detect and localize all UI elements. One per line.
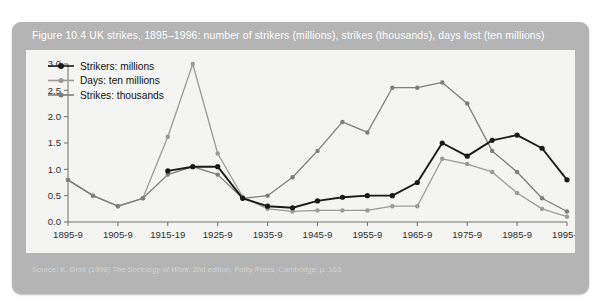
- legend-label: Strikes: thousands: [80, 90, 164, 101]
- data-point: [490, 170, 494, 174]
- data-point: [66, 178, 70, 182]
- line-chart: 0.00.51.01.52.02.53.0 1895-91905-91915-1…: [26, 50, 575, 253]
- legend-marker: [59, 78, 64, 83]
- data-point: [565, 215, 569, 219]
- data-point: [340, 120, 344, 124]
- x-tick-label: 1905-9: [103, 229, 133, 240]
- data-point: [265, 193, 269, 197]
- data-point: [365, 208, 369, 212]
- data-point: [290, 205, 295, 210]
- data-point: [91, 193, 95, 197]
- data-point: [515, 133, 520, 138]
- source-suffix: , 2nd edition, Polity Press, Cambridge; …: [189, 265, 344, 274]
- chart-legend: Strikers: millionsDays: ten millionsStri…: [48, 61, 164, 101]
- y-tick-label: 0.0: [48, 216, 61, 227]
- plot-area: 0.00.51.01.52.02.53.0 1895-91905-91915-1…: [26, 50, 575, 253]
- y-tick-label: 2.0: [48, 111, 61, 122]
- data-point: [340, 195, 345, 200]
- data-point: [240, 196, 245, 201]
- x-tick-label: 1975-9: [452, 229, 482, 240]
- figure-caption: Figure 10.4 UK strikes, 1895–1996: numbe…: [32, 30, 577, 41]
- data-point: [215, 164, 220, 169]
- data-point: [315, 149, 319, 153]
- data-point: [315, 208, 319, 212]
- data-point: [390, 204, 394, 208]
- data-point: [365, 193, 370, 198]
- source-title: The Sociology of Work: [112, 265, 188, 274]
- data-point: [465, 101, 469, 105]
- data-point: [490, 149, 494, 153]
- data-point: [539, 146, 544, 151]
- x-tick-label: 1915-19: [150, 229, 185, 240]
- x-tick-label: 1965-9: [402, 229, 432, 240]
- data-point: [116, 204, 120, 208]
- x-tick-label: 1935-9: [253, 229, 283, 240]
- x-tick-label: 1925-9: [203, 229, 233, 240]
- data-point: [340, 208, 344, 212]
- data-point: [465, 154, 470, 159]
- data-point: [290, 175, 294, 179]
- data-point: [440, 140, 445, 145]
- source-note: Source: K. Grint (1998) The Sociology of…: [32, 265, 579, 274]
- data-point: [365, 130, 369, 134]
- data-point: [390, 193, 395, 198]
- y-tick-label: 0.5: [48, 190, 61, 201]
- data-point: [165, 168, 170, 173]
- y-tick-label: 1.0: [48, 164, 61, 175]
- data-point: [141, 196, 145, 200]
- data-point: [540, 207, 544, 211]
- data-point: [465, 162, 469, 166]
- data-point: [191, 62, 195, 66]
- data-point: [415, 204, 419, 208]
- x-tick-label: 1995-6: [552, 229, 575, 240]
- data-point: [390, 86, 394, 90]
- legend-marker: [58, 63, 64, 69]
- data-point: [564, 177, 569, 182]
- x-tick-label: 1985-9: [502, 229, 532, 240]
- legend-label: Strikers: millions: [80, 61, 154, 72]
- source-prefix: Source: K. Grint (1998): [32, 265, 112, 274]
- x-tick-label: 1895-9: [53, 229, 83, 240]
- data-point: [216, 151, 220, 155]
- data-point: [190, 164, 195, 169]
- data-point: [415, 180, 420, 185]
- data-point: [166, 134, 170, 138]
- figure-panel: Figure 10.4 UK strikes, 1895–1996: numbe…: [12, 22, 589, 294]
- data-point: [415, 86, 419, 90]
- x-tick-label: 1955-9: [352, 229, 382, 240]
- data-point: [440, 157, 444, 161]
- data-point: [515, 191, 519, 195]
- data-point: [490, 138, 495, 143]
- legend-label: Days: ten millions: [80, 75, 160, 86]
- data-point: [315, 198, 320, 203]
- x-axis: 1895-91905-91915-191925-91935-91945-9195…: [53, 222, 575, 240]
- data-point: [216, 172, 220, 176]
- y-tick-label: 1.5: [48, 137, 61, 148]
- series-line-2: [68, 82, 567, 211]
- data-point: [440, 80, 444, 84]
- data-point: [265, 204, 270, 209]
- data-point: [540, 196, 544, 200]
- legend-marker: [59, 93, 64, 98]
- data-point: [515, 170, 519, 174]
- x-tick-label: 1945-9: [303, 229, 333, 240]
- y-axis: 0.00.51.01.52.02.53.0: [48, 58, 68, 227]
- data-point: [565, 209, 569, 213]
